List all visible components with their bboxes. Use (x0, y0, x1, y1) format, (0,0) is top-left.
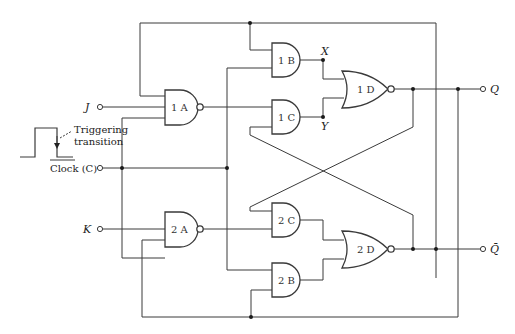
junction-y-dot (321, 115, 325, 119)
jk-flip-flop-diagram: 1 A 2 A 1 B 1 C 2 C 2 B 1 D 2 D (0, 0, 515, 334)
j-label: J (83, 101, 90, 114)
gate-1d-nor: 1 D (342, 71, 394, 108)
clock-vertical-wire (227, 68, 272, 270)
node-y-label: Y (321, 120, 330, 133)
junction-dot (249, 315, 253, 319)
j-terminal (97, 104, 102, 109)
clock-branch-wire (122, 118, 165, 258)
svg-text:2 A: 2 A (171, 224, 189, 235)
wire-to-1b-upper (250, 23, 272, 50)
1b-out-wire (300, 60, 344, 79)
junction-dot (120, 166, 124, 170)
junction-dot (248, 21, 252, 25)
node-x-label: X (320, 45, 330, 58)
svg-text:1 B: 1 B (278, 55, 295, 66)
svg-text:transition: transition (74, 136, 124, 147)
2c-out-wire (300, 220, 344, 240)
junction-dot (225, 166, 229, 170)
junction-dot (411, 247, 415, 251)
gate-1c-and: 1 C (272, 100, 300, 134)
svg-text:Triggering: Triggering (74, 124, 129, 135)
qbar-label: Q̄ (490, 243, 499, 256)
svg-text:1 A: 1 A (171, 102, 189, 113)
2b-out-wire (300, 259, 344, 280)
svg-text:1 D: 1 D (357, 84, 375, 95)
k-label: K (82, 223, 92, 236)
gate-2a-nand: 2 A (165, 212, 203, 247)
gate-2b-and: 2 B (272, 263, 300, 297)
gate-1a-nand: 1 A (165, 90, 203, 125)
svg-text:2 D: 2 D (357, 244, 375, 255)
clock-pulse-waveform: Triggering transition (20, 124, 129, 157)
q-terminal (480, 86, 485, 91)
k-terminal (97, 226, 102, 231)
gate-1b-and: 1 B (272, 43, 300, 77)
junction-dot (411, 87, 415, 91)
gate-2d-nor: 2 D (342, 231, 394, 268)
qbar-terminal (480, 246, 485, 251)
gate-2c-and: 2 C (272, 203, 300, 237)
wire-to-2b-lower (251, 290, 272, 317)
arrow-down-icon (54, 143, 60, 149)
junction-x-dot (321, 58, 325, 62)
q-label: Q (490, 83, 499, 96)
annotation-leader (60, 131, 72, 138)
svg-text:2 B: 2 B (278, 275, 295, 286)
clock-terminal (97, 165, 102, 170)
svg-text:2 C: 2 C (278, 215, 296, 226)
clock-label: Clock (C) (50, 163, 97, 174)
junction-dot (434, 247, 438, 251)
junction-dot (456, 87, 460, 91)
1c-out-wire (300, 98, 344, 117)
svg-text:1 C: 1 C (278, 112, 296, 123)
